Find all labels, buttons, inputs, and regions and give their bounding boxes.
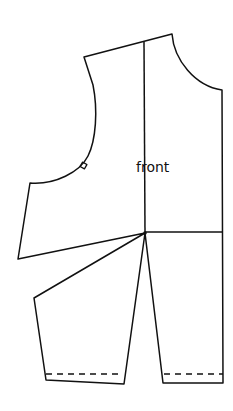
bodice-outline — [18, 34, 223, 384]
apex-point — [143, 231, 147, 235]
piece-label: front — [136, 159, 169, 175]
center-front-line — [144, 42, 145, 233]
pattern-diagram — [0, 0, 233, 411]
notch-icon — [80, 162, 87, 169]
